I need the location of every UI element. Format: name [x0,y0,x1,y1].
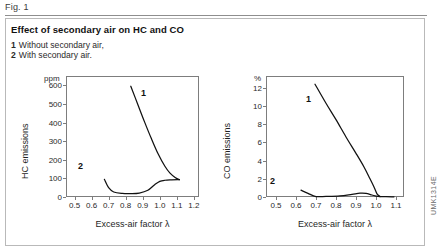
legend-item-1-label: Without secondary air, [19,40,104,50]
header-divider [5,15,427,16]
legend-item-1-number: 1 [11,40,16,50]
series-2-annotation: 2 [78,161,83,171]
legend-item-2-number: 2 [11,50,16,60]
figure-number: Fig. 1 [5,2,29,12]
chart-hc-emissions: ppm HC emissions Excess-air factor λ 010… [8,62,216,244]
chart-curves [8,62,216,244]
chart-curves [218,62,426,244]
series-1-curve [131,86,180,179]
series-2-curve [104,179,179,193]
figure-title: Effect of secondary air on HC and CO [11,24,184,35]
series-1-annotation: 1 [306,94,311,104]
legend-item-1: 1Without secondary air, [11,40,104,50]
series-1-curve [315,84,380,196]
legend-item-2-label: With secondary air. [19,50,92,60]
series-1-annotation: 1 [141,88,146,98]
legend-item-2: 2With secondary air. [11,50,92,60]
chart-co-emissions: % CO emissions Excess-air factor λ 02468… [218,62,426,244]
figure-side-code: UMK1314E [430,176,437,215]
series-2-annotation: 2 [270,176,275,186]
